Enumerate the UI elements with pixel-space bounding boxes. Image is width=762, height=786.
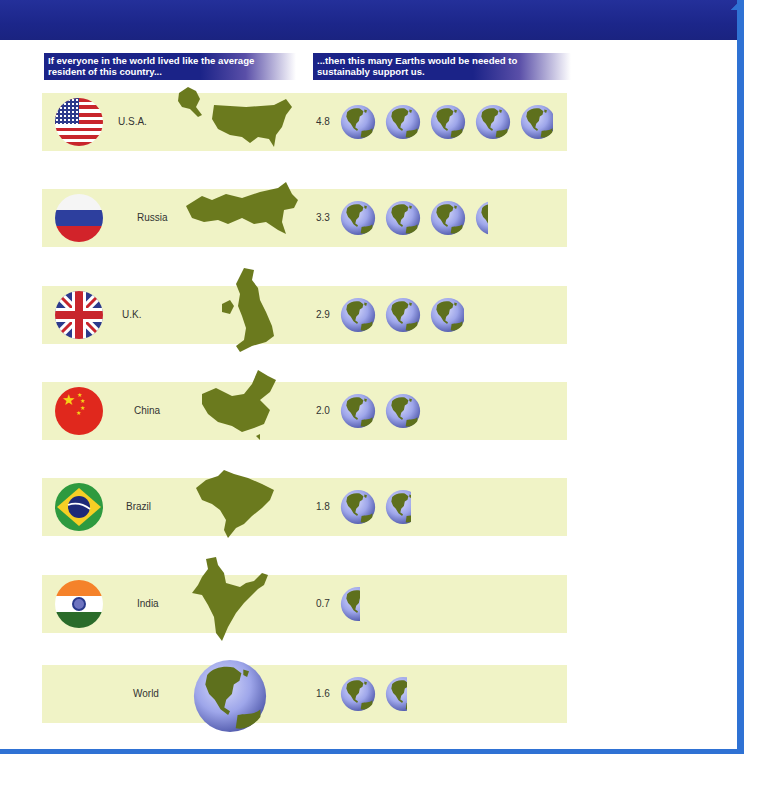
row-russia: Russia 3.3 bbox=[42, 189, 567, 247]
country-label: U.S.A. bbox=[118, 116, 147, 127]
row-usa: U.S.A. 4.8 bbox=[42, 93, 567, 151]
earths-count bbox=[340, 584, 360, 624]
earth-globe-partial-icon bbox=[475, 198, 488, 238]
earth-globe-partial-icon bbox=[385, 674, 407, 714]
earths-count bbox=[340, 391, 421, 431]
value-label: 2.0 bbox=[316, 405, 330, 416]
usa-flag-icon bbox=[55, 98, 103, 146]
earths-count bbox=[340, 102, 553, 142]
uk-map-icon bbox=[218, 266, 288, 362]
china-flag-icon: ★ ★ ★ ★ ★ bbox=[55, 387, 103, 435]
india-map-icon bbox=[188, 555, 278, 653]
russia-map-icon bbox=[182, 182, 302, 250]
earth-globe-icon bbox=[340, 295, 376, 335]
earth-globe-icon bbox=[340, 487, 376, 527]
row-india: India 0.7 bbox=[42, 575, 567, 633]
country-label: World bbox=[133, 688, 159, 699]
value-label: 1.6 bbox=[316, 688, 330, 699]
earth-globe-icon bbox=[340, 102, 376, 142]
earth-globe-icon bbox=[385, 102, 421, 142]
earth-globe-icon bbox=[475, 102, 511, 142]
brazil-map-icon bbox=[192, 466, 278, 546]
earths-count bbox=[340, 674, 407, 714]
earth-globe-partial-icon bbox=[385, 487, 411, 527]
row-china: ★ ★ ★ ★ ★ China 2.0 bbox=[42, 382, 567, 440]
country-label: U.K. bbox=[122, 309, 141, 320]
earth-globe-partial-icon bbox=[430, 295, 464, 335]
value-label: 1.8 bbox=[316, 501, 330, 512]
earth-globe-icon bbox=[385, 198, 421, 238]
frame-right-border bbox=[737, 0, 744, 754]
earths-count bbox=[340, 295, 464, 335]
row-uk: U.K. 2.9 bbox=[42, 286, 567, 344]
usa-map-icon bbox=[174, 85, 304, 155]
header-band bbox=[0, 0, 740, 40]
row-world: World 1.6 bbox=[42, 665, 567, 723]
earth-globe-icon bbox=[430, 198, 466, 238]
brazil-flag-icon bbox=[55, 483, 103, 531]
earth-globe-icon bbox=[340, 674, 376, 714]
earth-globe-partial-icon bbox=[340, 584, 360, 624]
value-label: 3.3 bbox=[316, 212, 330, 223]
country-label: Brazil bbox=[126, 501, 151, 512]
country-label: China bbox=[134, 405, 160, 416]
earth-globe-icon bbox=[385, 391, 421, 431]
earths-count bbox=[340, 487, 411, 527]
value-label: 0.7 bbox=[316, 598, 330, 609]
value-label: 4.8 bbox=[316, 116, 330, 127]
earth-globe-icon bbox=[430, 102, 466, 142]
earths-count bbox=[340, 198, 488, 238]
frame-bottom-border bbox=[0, 749, 744, 754]
column-header-earths: ...then this many Earths would be needed… bbox=[313, 53, 571, 80]
uk-flag-icon bbox=[55, 291, 103, 339]
row-brazil: Brazil 1.8 bbox=[42, 478, 567, 536]
column-header-country: If everyone in the world lived like the … bbox=[44, 53, 296, 80]
china-map-icon bbox=[198, 366, 282, 450]
country-label: Russia bbox=[137, 212, 168, 223]
earth-globe-icon bbox=[385, 295, 421, 335]
world-globe-icon bbox=[192, 657, 268, 735]
earth-globe-icon bbox=[340, 198, 376, 238]
earth-globe-icon bbox=[340, 391, 376, 431]
earth-globe-partial-icon bbox=[520, 102, 553, 142]
russia-flag-icon bbox=[55, 194, 103, 242]
india-flag-icon bbox=[55, 580, 103, 628]
country-label: India bbox=[137, 598, 159, 609]
value-label: 2.9 bbox=[316, 309, 330, 320]
